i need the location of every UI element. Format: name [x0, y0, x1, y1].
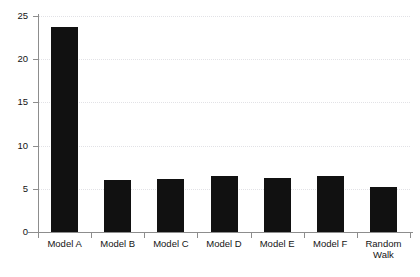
bar: [104, 180, 131, 232]
plot-area: [38, 16, 410, 232]
bar: [317, 176, 344, 232]
y-tick-label: 20: [0, 54, 28, 64]
y-tick-label: 0: [0, 227, 28, 237]
x-axis-label: Model A: [38, 238, 91, 249]
x-axis-label: Random Walk: [357, 238, 410, 260]
bar: [264, 178, 291, 232]
x-tick-mark: [410, 233, 411, 238]
x-axis-label: Model B: [91, 238, 144, 249]
bar-chart: 0510152025 Model AModel BModel CModel DM…: [0, 0, 420, 277]
y-tick-label: 25: [0, 11, 28, 21]
bar: [51, 27, 78, 232]
bar: [157, 179, 184, 232]
bar: [370, 187, 397, 232]
y-tick-label: 10: [0, 141, 28, 151]
bar: [211, 176, 238, 232]
y-tick-label: 15: [0, 97, 28, 107]
x-axis-label: Model F: [304, 238, 357, 249]
x-axis-label: Model D: [197, 238, 250, 249]
x-axis-label: Model E: [251, 238, 304, 249]
y-tick-label: 5: [0, 184, 28, 194]
x-axis-line: [28, 232, 413, 233]
x-axis-label: Model C: [144, 238, 197, 249]
